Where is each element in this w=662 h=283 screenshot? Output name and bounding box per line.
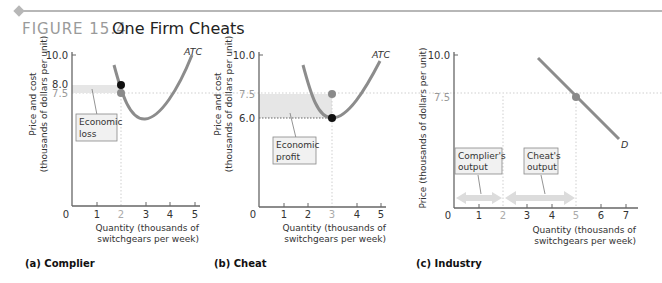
svg-text:3: 3 (143, 209, 149, 220)
panel-c-chart: Complier's output Cheat's output 10.0 7.… (418, 47, 638, 246)
svg-text:5: 5 (378, 209, 384, 220)
svg-text:4: 4 (549, 210, 555, 221)
atc-label: ATC (371, 49, 391, 60)
panel-a-label: (a) Complier (25, 258, 95, 269)
svg-text:0: 0 (250, 209, 256, 220)
economic-profit-label: Economic (276, 140, 320, 150)
economic-profit-area (259, 94, 332, 118)
svg-text:switchgears per week): switchgears per week) (284, 234, 386, 244)
svg-text:7.5: 7.5 (239, 89, 255, 100)
x-axis-label: Quantity (thousands of (282, 223, 386, 233)
panel-b-label: (b) Cheat (214, 258, 267, 269)
svg-text:2: 2 (305, 209, 311, 220)
y-axis-label: Price and cost (213, 72, 223, 136)
svg-text:1: 1 (281, 209, 287, 220)
atc-label: ATC (183, 46, 203, 57)
svg-text:switchgears per week): switchgears per week) (97, 234, 199, 244)
demand-label: D (621, 139, 628, 150)
svg-text:1: 1 (94, 209, 100, 220)
ytick-10: 10.0 (46, 50, 68, 61)
svg-text:profit: profit (276, 152, 300, 162)
panel-c-label: (c) Industry (416, 258, 482, 269)
panel-a-chart: Economic loss 10.0 8.0 7.5 0 1 2 3 4 5 Q… (28, 36, 662, 244)
price-point (117, 89, 125, 97)
atc-point (117, 81, 125, 89)
svg-text:loss: loss (79, 129, 97, 139)
equilibrium-point (572, 93, 580, 101)
svg-text:output: output (527, 162, 557, 172)
svg-text:4: 4 (354, 209, 360, 220)
svg-text:0: 0 (445, 210, 451, 221)
svg-text:3: 3 (329, 209, 335, 220)
svg-text:6.0: 6.0 (239, 113, 255, 124)
svg-text:1: 1 (476, 210, 482, 221)
x-axis-label: Quantity (thousands of (532, 225, 636, 235)
svg-text:(thousands of dollars per unit: (thousands of dollars per unit) (224, 36, 234, 172)
complier-output-arrow (456, 192, 502, 204)
price-point (328, 90, 336, 98)
ytick-7-5: 7.5 (52, 88, 68, 99)
economic-loss-area (72, 85, 121, 93)
svg-text:2: 2 (500, 210, 506, 221)
y-axis-label: Price and cost (28, 72, 38, 136)
svg-text:6: 6 (598, 210, 604, 221)
svg-text:3: 3 (524, 210, 530, 221)
atc-curve (114, 55, 192, 119)
cheats-output-label: Cheat's (527, 151, 561, 161)
svg-text:2: 2 (118, 209, 124, 220)
svg-text:(thousands of dollars per unit: (thousands of dollars per unit) (39, 36, 49, 172)
svg-text:7: 7 (623, 210, 629, 221)
svg-text:5: 5 (192, 209, 198, 220)
charts-canvas: Economic loss 10.0 8.0 7.5 0 1 2 3 4 5 Q… (0, 0, 662, 283)
y-axis-label: Price (thousands of dollars per unit) (418, 47, 428, 208)
svg-text:5: 5 (573, 210, 579, 221)
svg-text:10.0: 10.0 (233, 50, 255, 61)
x-axis-label: Quantity (thousands of (95, 223, 199, 233)
svg-text:7.5: 7.5 (434, 92, 450, 103)
panel-b-chart: Economic profit 10.0 7.5 6.0 0 1 2 3 4 5… (213, 36, 391, 244)
compliers-output-label: Complier's (458, 151, 506, 161)
svg-text:0: 0 (63, 209, 69, 220)
economic-loss-label: Economic (79, 117, 123, 127)
svg-text:switchgears per week): switchgears per week) (534, 236, 636, 246)
atc-min-point (328, 114, 336, 122)
svg-text:output: output (458, 162, 488, 172)
figure: FIGURE 15.4 One Firm Cheats Economic lo (0, 0, 662, 283)
svg-text:4: 4 (167, 209, 173, 220)
svg-text:10.0: 10.0 (428, 50, 450, 61)
cheat-output-arrow (505, 191, 575, 205)
